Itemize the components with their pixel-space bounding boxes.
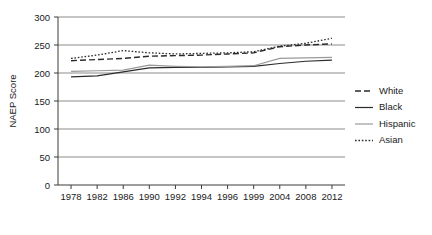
- x-tick-label-1990: 1990: [139, 191, 160, 202]
- y-tick-label-0: 0: [45, 180, 50, 191]
- data-series-group: [71, 38, 332, 77]
- x-axis-tick-labels: 1978198219861990199219941996199920042008…: [60, 191, 342, 202]
- x-tick-label-1982: 1982: [87, 191, 108, 202]
- x-tick-label-2012: 2012: [321, 191, 342, 202]
- x-tick-label-1986: 1986: [113, 191, 134, 202]
- x-tick-label-2008: 2008: [295, 191, 316, 202]
- y-axis-tick-labels: 050100150200250300: [34, 12, 50, 191]
- series-line-black: [71, 60, 332, 77]
- legend-label-asian: Asian: [379, 134, 403, 145]
- y-axis-title: NAEP Score: [7, 74, 18, 127]
- x-tick-label-1996: 1996: [217, 191, 238, 202]
- y-tick-label-100: 100: [34, 124, 50, 135]
- x-tick-label-1992: 1992: [165, 191, 186, 202]
- naep-score-line-chart: 050100150200250300 197819821986199019921…: [0, 0, 432, 235]
- chart-legend: WhiteBlackHispanicAsian: [355, 85, 416, 146]
- x-tick-label-1978: 1978: [60, 191, 81, 202]
- y-tick-label-200: 200: [34, 68, 50, 79]
- chart-container: 050100150200250300 197819821986199019921…: [0, 0, 432, 235]
- x-tick-label-1999: 1999: [243, 191, 264, 202]
- legend-label-white: White: [379, 85, 403, 96]
- x-tick-label-2004: 2004: [269, 191, 290, 202]
- legend-label-black: Black: [379, 101, 402, 112]
- legend-label-hispanic: Hispanic: [379, 118, 416, 129]
- y-tick-label-300: 300: [34, 12, 50, 23]
- y-axis-ticks: [54, 17, 58, 185]
- x-axis-ticks: [71, 185, 332, 189]
- y-axis-gridlines: [58, 17, 345, 157]
- y-tick-label-250: 250: [34, 40, 50, 51]
- y-tick-label-150: 150: [34, 96, 50, 107]
- y-tick-label-50: 50: [39, 152, 50, 163]
- x-tick-label-1994: 1994: [191, 191, 212, 202]
